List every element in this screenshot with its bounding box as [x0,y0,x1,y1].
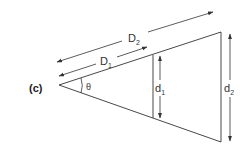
theta-angle-arc [81,78,82,93]
d1-label: d1 [155,82,165,96]
outer-triangle [59,32,221,142]
similar-triangles-diagram: (c) θ D2 D1 d1 d2 [0,0,246,153]
D1-label: D1 [100,55,112,69]
d2-label: d2 [224,82,234,96]
D2-label: D2 [128,32,140,46]
panel-label: (c) [29,82,43,94]
theta-label: θ [86,82,91,92]
